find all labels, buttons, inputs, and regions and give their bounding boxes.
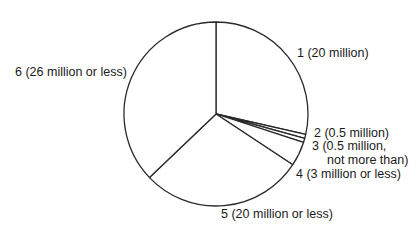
label-slice-1: 1 (20 million) xyxy=(297,46,369,60)
label-slice-3-line1: 3 (0.5 million, xyxy=(312,139,386,153)
label-slice-5: 5 (20 million or less) xyxy=(221,207,333,221)
label-slice-6: 6 (26 million or less) xyxy=(15,65,127,79)
label-slice-4: 4 (3 million or less) xyxy=(296,167,401,181)
pie-chart xyxy=(0,0,418,233)
label-slice-3-line2: not more than) xyxy=(327,153,408,167)
label-slice-2: 2 (0.5 million) xyxy=(314,126,389,140)
pie-slices xyxy=(124,22,308,206)
